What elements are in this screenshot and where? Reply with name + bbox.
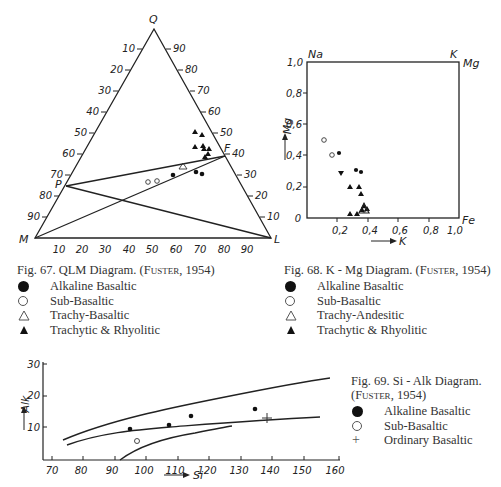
corner-label-fe: Fe [462,214,475,227]
qlm-series-trachytic-rhyolitic [192,129,212,159]
k-mg-diagram: 1,00,80,6 0,40,20 0,20,40,6 0,81,0 Na K … [281,48,479,248]
svg-text:40: 40 [123,244,136,255]
svg-text:40: 40 [86,106,99,117]
open-triangle-icon [18,310,30,321]
svg-text:150: 150 [292,465,311,476]
qlm-series-sub-basaltic [146,179,160,185]
legend-item: Trachytic & Rhyolitic [18,323,160,338]
svg-text:20: 20 [255,190,268,201]
x-axis-label-k: K [371,235,407,248]
open-triangle-icon [285,310,297,321]
fig67-legend: Alkaline Basaltic Sub-Basaltic Trachy-Ba… [18,279,160,337]
fig69-caption: Fig. 69. Si - Alk Diagram.(Fuster, 1954) [351,374,482,402]
svg-text:70: 70 [197,85,210,96]
open-circle-icon [18,296,28,306]
corner-label-mg: Mg [463,57,479,70]
legend-item: +Ordinary Basaltic [352,433,473,448]
open-circle-icon [352,421,362,431]
svg-text:40: 40 [232,148,245,159]
filled-triangle-icon [18,324,30,335]
fig68-legend: Alkaline Basaltic Sub-Basaltic Trachy-An… [285,279,427,337]
qlm-series-alkaline-basaltic [171,170,205,178]
legend-item: Sub-Basaltic [285,294,427,309]
svg-text:0,4: 0,4 [286,150,302,161]
vertex-q-label: Q [149,13,158,26]
vertex-m-label: M [19,233,29,246]
svg-text:70: 70 [50,169,63,180]
legend-item: Trachytic & Rhyolitic [285,323,427,338]
svg-text:K: K [399,235,407,248]
legend-item: Sub-Basaltic [352,419,473,434]
qlm-triangle-outline [35,29,271,238]
legend-item: Alkaline Basaltic [352,404,473,419]
svg-text:Si: Si [193,469,203,482]
fig67-caption: Fig. 67. QLM Diagram. (Fuster, 1954) [17,263,215,278]
svg-text:100: 100 [134,465,153,476]
svg-text:0,8: 0,8 [423,225,439,236]
svg-text:80: 80 [218,244,231,255]
legend-item: Alkaline Basaltic [18,279,160,294]
svg-text:50: 50 [74,127,87,138]
svg-text:90: 90 [173,43,186,54]
svg-text:0,2: 0,2 [332,225,348,236]
svg-text:60: 60 [170,244,183,255]
filled-circle-icon [285,281,296,292]
filled-triangle-icon [285,324,297,335]
fig68-caption: Fig. 68. K - Mg Diagram. (Fuster, 1954) [284,263,491,278]
corner-label-k: K [450,48,458,61]
svg-text:90: 90 [241,244,254,255]
filled-circle-icon [18,281,29,292]
svg-text:140: 140 [260,465,279,476]
line-m-f [35,156,225,238]
svg-text:1,0: 1,0 [447,225,463,236]
svg-text:10: 10 [27,422,40,433]
svg-text:70: 70 [46,465,59,476]
svg-text:70: 70 [194,244,207,255]
svg-text:60: 60 [208,106,221,117]
si-alk-diagram: 302010 708090 100110120 130140150 160 Al… [19,359,345,482]
svg-text:0: 0 [295,213,301,224]
point-f-label: F [224,142,231,155]
svg-text:80: 80 [75,465,88,476]
open-circle-icon [285,296,295,306]
svg-text:90: 90 [106,465,119,476]
plus-icon: + [352,434,360,446]
legend-item: Alkaline Basaltic [285,279,427,294]
upper-boundary-curve [63,378,330,440]
fig69-legend: Alkaline Basaltic Sub-Basaltic +Ordinary… [352,404,473,448]
svg-text:20: 20 [110,64,123,75]
svg-text:110: 110 [165,465,184,476]
svg-text:10: 10 [267,211,280,222]
vertex-l-label: L [274,233,280,246]
svg-text:30: 30 [27,359,40,370]
svg-text:50: 50 [146,244,159,255]
legend-item: Trachy-Andesitic [285,308,427,323]
svg-text:80: 80 [185,64,198,75]
corner-label-na: Na [308,48,323,61]
legend-item: Sub-Basaltic [18,294,160,309]
middle-boundary-curve [67,417,320,445]
svg-text:30: 30 [98,85,111,96]
svg-text:0,8: 0,8 [286,88,302,99]
svg-text:1,0: 1,0 [287,57,303,68]
svg-text:30: 30 [244,169,257,180]
svg-text:0,4: 0,4 [362,225,378,236]
legend-item: Trachy-Basaltic [18,308,160,323]
lower-curve [120,426,232,460]
svg-text:160: 160 [325,465,344,476]
svg-text:Mg: Mg [281,118,294,134]
svg-text:20: 20 [76,244,89,255]
svg-text:0,2: 0,2 [286,181,302,192]
svg-text:30: 30 [99,244,112,255]
filled-circle-icon [352,406,363,417]
svg-text:10: 10 [122,43,135,54]
svg-text:130: 130 [229,465,248,476]
svg-text:50: 50 [220,127,233,138]
svg-text:80: 80 [39,190,52,201]
svg-text:10: 10 [53,244,66,255]
svg-text:60: 60 [62,148,75,159]
svg-text:90: 90 [27,211,40,222]
